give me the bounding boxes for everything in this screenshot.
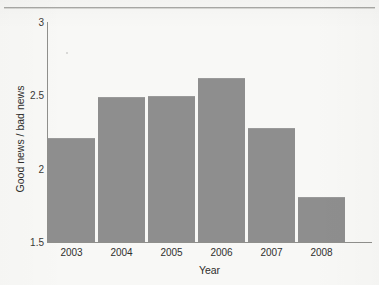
bar-rect xyxy=(198,78,245,242)
y-axis-title: Good news / bad news xyxy=(14,59,26,219)
x-axis-line xyxy=(47,242,372,243)
x-axis-tick-label: 2008 xyxy=(292,247,352,258)
figure-page: 1.522.53 Good news / bad news 2003200420… xyxy=(0,0,379,285)
y-axis-tick-label: 3 xyxy=(2,17,44,28)
bar-rect xyxy=(148,96,195,242)
bar-chart: 1.522.53 Good news / bad news 2003200420… xyxy=(0,0,379,285)
bar-rect xyxy=(248,128,295,242)
x-axis-title: Year xyxy=(47,264,372,276)
bar-rect xyxy=(48,138,95,242)
bar-rect xyxy=(298,197,345,242)
bars-container xyxy=(48,22,348,242)
y-axis-tick-label: 1.5 xyxy=(2,237,44,248)
bar-rect xyxy=(98,97,145,242)
